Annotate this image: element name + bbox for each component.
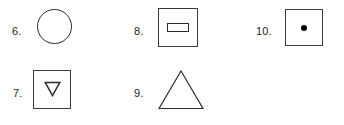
item-number-label: 9.	[134, 88, 143, 99]
figure-item-6: 6.	[0, 0, 90, 62]
filled-dot-icon	[301, 25, 307, 31]
down-triangle-icon	[44, 81, 61, 97]
item-number-label: 10.	[256, 26, 272, 37]
figure-item-8: 8.	[122, 0, 212, 62]
horizontal-rectangle-icon	[167, 23, 189, 32]
triangle-shape	[158, 70, 204, 110]
item-number-label: 8.	[134, 26, 143, 37]
item-number-label: 6.	[12, 26, 21, 37]
figure-sheet: 6. 7. 8. 9. 10.	[0, 0, 344, 125]
figure-item-9: 9.	[122, 62, 217, 125]
item-number-label: 7.	[13, 88, 22, 99]
figure-item-10: 10.	[250, 0, 344, 62]
circle-shape	[37, 9, 72, 44]
figure-item-7: 7.	[0, 62, 90, 125]
